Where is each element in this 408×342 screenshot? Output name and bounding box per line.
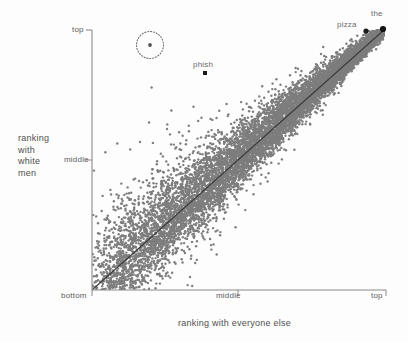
point-marker-the <box>380 26 386 32</box>
annotation-label-pizza: pizza <box>337 20 357 29</box>
y-axis-title-line-3: white <box>18 156 49 168</box>
y-axis-title-line-1: ranking <box>18 133 49 145</box>
x-axis-title: ranking with everyone else <box>178 318 291 328</box>
y-tick-label-middle: middle <box>64 155 89 165</box>
point-marker-circled <box>148 43 152 47</box>
x-tick-label-bottom: bottom <box>61 291 87 301</box>
x-tick-label-middle: middle <box>216 291 241 301</box>
annotation-label-phish: phish <box>193 60 213 69</box>
scatter-figure: ranking with white men top middle bottom… <box>0 0 408 342</box>
point-marker-pizza <box>363 28 368 33</box>
annotation-label-the: the <box>371 9 383 18</box>
y-axis-title: ranking with white men <box>18 133 49 179</box>
y-axis-title-line-2: with <box>18 145 49 157</box>
identity-reference-line <box>92 30 384 290</box>
y-tick-label-top: top <box>72 25 84 35</box>
x-tick-label-top: top <box>371 291 383 301</box>
point-marker-phish <box>203 71 207 75</box>
y-axis-title-line-4: men <box>18 168 49 180</box>
